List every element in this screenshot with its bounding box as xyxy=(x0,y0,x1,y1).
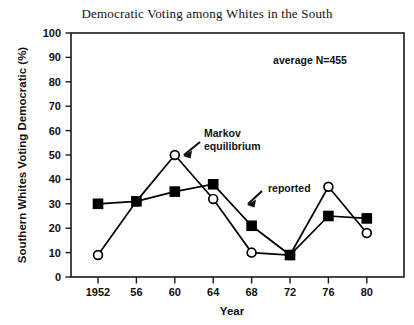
data-point-square xyxy=(93,199,102,208)
x-axis-title: Year xyxy=(220,305,245,317)
x-tick-label: 72 xyxy=(284,286,296,298)
data-point-square xyxy=(170,187,179,196)
x-tick-label: 76 xyxy=(322,286,334,298)
y-tick-label: 10 xyxy=(49,247,61,259)
plot-frame xyxy=(71,33,404,277)
y-tick-label: 40 xyxy=(49,173,61,185)
y-tick-label: 20 xyxy=(49,222,61,234)
y-tick-label: 80 xyxy=(49,76,61,88)
x-tick-label: 56 xyxy=(130,286,142,298)
x-axis-tick-labels: 1952 56 60 64 68 72 76 80 xyxy=(86,286,373,298)
chart-container: Democratic Voting among Whites in the So… xyxy=(0,0,414,325)
x-axis-ticks xyxy=(98,277,367,284)
y-tick-label: 70 xyxy=(49,100,61,112)
data-point-circle xyxy=(362,229,371,238)
data-point-square xyxy=(362,214,371,223)
x-tick-label: 60 xyxy=(169,286,181,298)
annotation-reported-label: reported xyxy=(268,182,311,194)
data-point-circle xyxy=(94,251,103,260)
data-point-circle xyxy=(324,182,333,191)
annotation-markov-line1: Markov xyxy=(204,127,241,139)
y-axis-ticks xyxy=(66,33,72,277)
y-axis-title: Southern Whites Voting Democratic (%) xyxy=(16,47,28,264)
data-point-square xyxy=(209,180,218,189)
data-point-square xyxy=(285,250,294,259)
data-point-circle xyxy=(247,248,256,257)
data-point-circle xyxy=(170,151,179,160)
data-point-square xyxy=(324,211,333,220)
annotation-markov-line2: equilibrium xyxy=(204,140,261,152)
x-tick-label: 68 xyxy=(245,286,257,298)
data-point-circle xyxy=(209,195,218,204)
chart-plot: 100 90 80 70 60 50 40 30 20 10 0 Souther… xyxy=(0,0,414,325)
x-tick-label: 1952 xyxy=(86,286,110,298)
x-tick-label: 64 xyxy=(207,286,220,298)
y-tick-label: 0 xyxy=(55,271,61,283)
y-tick-label: 60 xyxy=(49,125,61,137)
data-point-square xyxy=(247,221,256,230)
y-tick-label: 30 xyxy=(49,198,61,210)
data-point-square xyxy=(132,197,141,206)
y-axis-tick-labels: 100 90 80 70 60 50 40 30 20 10 0 xyxy=(43,27,61,283)
x-tick-label: 80 xyxy=(361,286,373,298)
y-tick-label: 90 xyxy=(49,51,61,63)
y-tick-label: 100 xyxy=(43,27,61,39)
y-tick-label: 50 xyxy=(49,149,61,161)
average-n-note: average N=455 xyxy=(273,54,347,66)
